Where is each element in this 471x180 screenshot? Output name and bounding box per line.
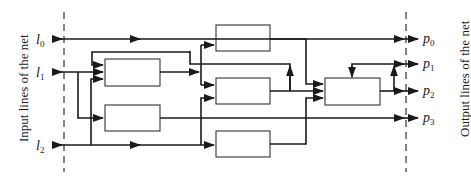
output-label-3: p3 [422,110,435,127]
block-e [216,131,270,157]
block-d [216,78,270,104]
block-c [216,25,270,51]
input-label-0: l0 [36,32,45,49]
output-label-2: p2 [422,83,435,100]
input-label-1: l1 [36,65,44,82]
output-label-1: p1 [422,56,435,73]
block-b [105,105,160,131]
input-label-2: l2 [36,138,44,155]
output-lines-label: Output lines of the net [457,20,471,137]
block-a [105,59,160,86]
input-lines-label: Input lines of the net [16,34,31,142]
block-f [325,78,380,105]
output-label-0: p0 [422,31,435,48]
net-diagram: l0 l1 l2 p0 p1 p2 p3 Input lines of the … [0,0,471,180]
